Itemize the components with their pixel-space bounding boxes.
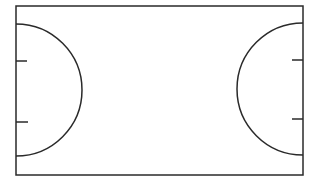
- court-boundary: [16, 6, 303, 175]
- court-diagram: [0, 0, 317, 181]
- left-goal-area-arc: [16, 24, 82, 156]
- right-goal-area-arc: [237, 23, 303, 155]
